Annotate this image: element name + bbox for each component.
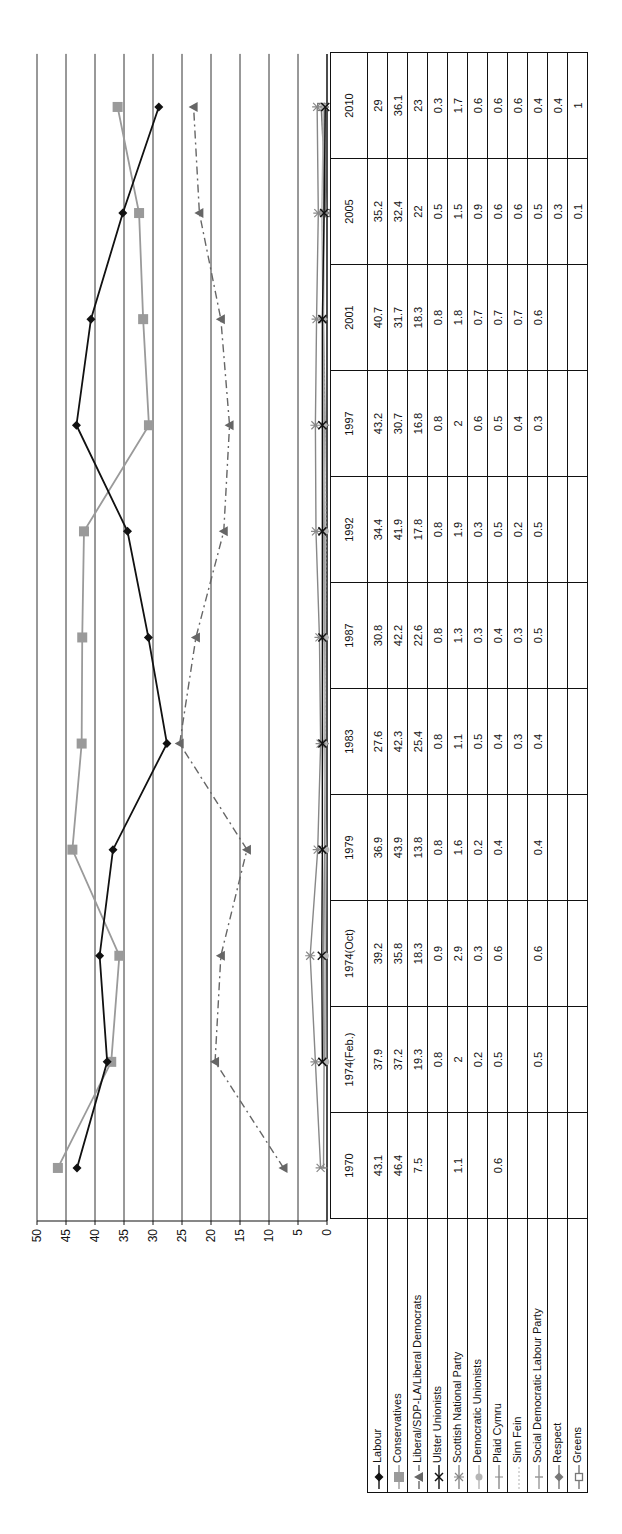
- square-marker-icon: [77, 739, 87, 749]
- legend-key-icon: [454, 1464, 464, 1490]
- year-header: 2010: [331, 53, 368, 159]
- table-cell: 43.9: [388, 795, 408, 901]
- legend-entry: Greens: [568, 1219, 588, 1493]
- year-header: 1979: [331, 795, 368, 901]
- table-cell: 43.2: [368, 371, 388, 477]
- legend-label: Democratic Unionists: [471, 1359, 483, 1463]
- table-row: Democratic Unionists0.20.30.20.50.30.30.…: [468, 53, 488, 1493]
- table-cell: 0.4: [548, 53, 568, 159]
- table-cell: 46.4: [388, 1113, 408, 1219]
- table-cell: 0.9: [428, 901, 448, 1007]
- table-cell: 0.3: [528, 371, 548, 477]
- legend-entry: Respect: [548, 1219, 568, 1493]
- table-cell: 0.8: [428, 583, 448, 689]
- legend-entry: Social Democratic Labour Party: [528, 1219, 548, 1493]
- table-cell: 0.3: [468, 477, 488, 583]
- table-cell: 34.4: [368, 477, 388, 583]
- table-cell: 0.5: [528, 159, 548, 265]
- table-cell: 1.1: [448, 689, 468, 795]
- square-marker-icon: [79, 526, 89, 536]
- year-header: 1992: [331, 477, 368, 583]
- table-cell: [548, 1113, 568, 1219]
- legend-label: Scottish National Party: [451, 1352, 463, 1463]
- table-cell: 0.3: [508, 689, 528, 795]
- legend-label: Liberal/SDP-LA/Liberal Democrats: [411, 1295, 423, 1463]
- square-marker-icon: [67, 845, 77, 855]
- table-cell: 35.2: [368, 159, 388, 265]
- table-cell: [548, 689, 568, 795]
- table-cell: 1: [568, 53, 588, 159]
- table-row: Sinn Fein0.30.30.20.40.70.60.6: [508, 53, 528, 1493]
- year-header: 2005: [331, 159, 368, 265]
- table-cell: 0.3: [548, 159, 568, 265]
- table-row: Scottish National Party1.122.91.61.11.31…: [448, 53, 468, 1493]
- square-marker-icon: [113, 102, 123, 112]
- legend-label: Plaid Cymru: [491, 1403, 503, 1463]
- table-cell: 1.8: [448, 265, 468, 371]
- table-cell: 0.6: [528, 265, 548, 371]
- table-cell: 0.4: [528, 53, 548, 159]
- diamond-marker-icon: [144, 633, 153, 642]
- table-cell: 1.1: [448, 1113, 468, 1219]
- table-cell: 0.7: [468, 265, 488, 371]
- table-cell: 31.7: [388, 265, 408, 371]
- table-cell: [548, 901, 568, 1007]
- legend-key-icon: [574, 1464, 584, 1490]
- table-cell: 0.7: [508, 265, 528, 371]
- legend-key-icon: [434, 1464, 444, 1490]
- table-cell: 0.8: [428, 265, 448, 371]
- triangle-marker-icon: [242, 845, 251, 855]
- table-cell: 43.1: [368, 1113, 388, 1219]
- rotated-chart-stage: 05101520253035404550 1970 1974(Feb.) 197…: [0, 0, 622, 1534]
- year-header: 1987: [331, 583, 368, 689]
- series-lines: [53, 102, 330, 1173]
- table-cell: 0.6: [468, 371, 488, 477]
- table-cell: 22: [408, 159, 428, 265]
- table-cell: 35.8: [388, 901, 408, 1007]
- y-tick-label: 50: [30, 1229, 44, 1243]
- table-cell: [548, 795, 568, 901]
- y-axis: 05101520253035404550: [30, 1221, 334, 1242]
- triangle-marker-icon: [189, 102, 198, 112]
- table-cell: 0.5: [528, 1007, 548, 1113]
- triangle-marker-icon: [414, 1472, 423, 1482]
- y-tick-label: 35: [117, 1229, 131, 1243]
- year-header: 1974(Oct): [331, 901, 368, 1007]
- table-cell: 0.3: [468, 901, 488, 1007]
- table-cell: 0.3: [468, 583, 488, 689]
- triangle-marker-icon: [175, 739, 184, 749]
- table-cell: 0.4: [508, 371, 528, 477]
- table-cell: 19.3: [408, 1007, 428, 1113]
- square-marker-icon: [53, 1163, 63, 1173]
- table-cell: 0.2: [468, 1007, 488, 1113]
- diamond-marker-icon: [95, 951, 104, 960]
- table-cell: 0.5: [488, 371, 508, 477]
- table-cell: [508, 795, 528, 901]
- square-marker-icon: [134, 208, 144, 218]
- table-cell: 0.4: [528, 689, 548, 795]
- table-body: Labour43.137.939.236.927.630.834.443.240…: [368, 53, 588, 1493]
- legend-key-icon: [514, 1464, 524, 1490]
- table-row: Labour43.137.939.236.927.630.834.443.240…: [368, 53, 388, 1493]
- table-cell: 13.8: [408, 795, 428, 901]
- table-cell: 0.7: [488, 265, 508, 371]
- table-cell: 0.4: [488, 689, 508, 795]
- diamond-marker-icon: [162, 739, 171, 748]
- table-cell: 0.8: [428, 1007, 448, 1113]
- legend-entry: Conservatives: [388, 1219, 408, 1493]
- table-cell: 0.8: [428, 689, 448, 795]
- legend-key-icon: [474, 1464, 484, 1490]
- diamond-marker-icon: [374, 1473, 383, 1482]
- table-cell: 23: [408, 53, 428, 159]
- table-cell: 0.6: [488, 901, 508, 1007]
- table-cell: 0.6: [468, 53, 488, 159]
- table-cell: [568, 583, 588, 689]
- table-row: Respect0.30.4: [548, 53, 568, 1493]
- table-cell: 37.2: [388, 1007, 408, 1113]
- triangle-marker-icon: [279, 1163, 288, 1173]
- table-cell: 0.5: [428, 159, 448, 265]
- legend-label: Greens: [571, 1427, 583, 1463]
- square-marker-icon: [394, 1472, 404, 1482]
- y-tick-label: 20: [204, 1229, 218, 1243]
- table-row: Conservatives46.437.235.843.942.342.241.…: [388, 53, 408, 1493]
